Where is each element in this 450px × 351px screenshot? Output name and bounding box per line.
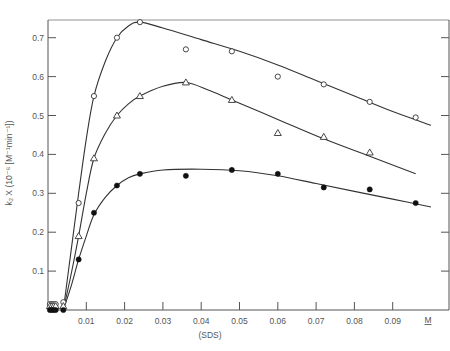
y-tick-label: 0.1 — [32, 266, 44, 276]
open-circle-marker — [367, 99, 372, 104]
filled-circle-marker — [367, 187, 372, 192]
filled-circle-marker — [137, 171, 142, 176]
x-axis-ticks: 0.010.020.030.040.050.060.070.080.09 — [78, 302, 401, 326]
y-tick-label: 0.6 — [32, 72, 44, 82]
open-circle-marker — [229, 49, 234, 54]
open-circle-marker — [183, 47, 188, 52]
x-tick-label: 0.03 — [155, 316, 172, 326]
y-axis-label-container: k₂ X (10⁻⁶ [M⁻¹min⁻¹]) — [2, 80, 16, 250]
open-circle-marker — [275, 74, 280, 79]
y-tick-label: 0.2 — [32, 227, 44, 237]
open-circle-marker — [321, 82, 326, 87]
open-circle-marker — [137, 20, 142, 25]
x-tick-label: 0.05 — [231, 316, 248, 326]
filled-circle-marker — [91, 210, 96, 215]
x-tick-label: 0.07 — [308, 316, 325, 326]
fit-curves — [63, 22, 431, 310]
open-circle-marker — [114, 35, 119, 40]
y-axis-label: k₂ X (10⁻⁶ [M⁻¹min⁻¹]) — [4, 78, 14, 248]
y-axis-ticks: 0.10.20.30.40.50.60.7 — [32, 33, 449, 276]
filled-circle-marker — [413, 200, 418, 205]
filled-circle-marker — [76, 257, 81, 262]
x-axis-label: (SDS) — [198, 330, 221, 340]
filled-circle-marker — [321, 185, 326, 190]
open-circle-marker — [413, 115, 418, 120]
filled-circle-marker — [275, 171, 280, 176]
x-tick-label: 0.09 — [384, 316, 401, 326]
y-tick-label: 0.5 — [32, 111, 44, 121]
y-tick-label: 0.7 — [32, 33, 44, 43]
open-circle-marker — [91, 93, 96, 98]
triangle-marker — [90, 155, 97, 161]
triangle-marker — [75, 233, 82, 239]
triangle-marker — [136, 93, 143, 99]
x-tick-label: 0.01 — [78, 316, 95, 326]
filled-circle-marker — [53, 307, 58, 312]
filled-circle-marker — [61, 307, 66, 312]
filled-circle-marker — [183, 173, 188, 178]
x-axis-unit: M — [424, 315, 431, 325]
triangle-marker — [366, 149, 373, 155]
filled-circle-marker — [229, 167, 234, 172]
x-tick-label: 0.02 — [116, 316, 133, 326]
x-tick-label: 0.06 — [270, 316, 287, 326]
x-tick-label: 0.08 — [346, 316, 363, 326]
chart: 0.010.020.030.040.050.060.070.080.09 0.1… — [0, 0, 450, 351]
plot-frame — [48, 20, 449, 310]
triangle-marker — [320, 133, 327, 139]
y-tick-label: 0.3 — [32, 188, 44, 198]
open-circles-fit — [63, 22, 431, 310]
x-tick-label: 0.04 — [193, 316, 210, 326]
y-tick-label: 0.4 — [32, 149, 44, 159]
filled-circle-marker — [114, 183, 119, 188]
open-circle-marker — [76, 200, 81, 205]
triangle-marker — [274, 130, 281, 136]
filled-circles-fit — [63, 169, 431, 310]
data-points — [46, 20, 418, 313]
